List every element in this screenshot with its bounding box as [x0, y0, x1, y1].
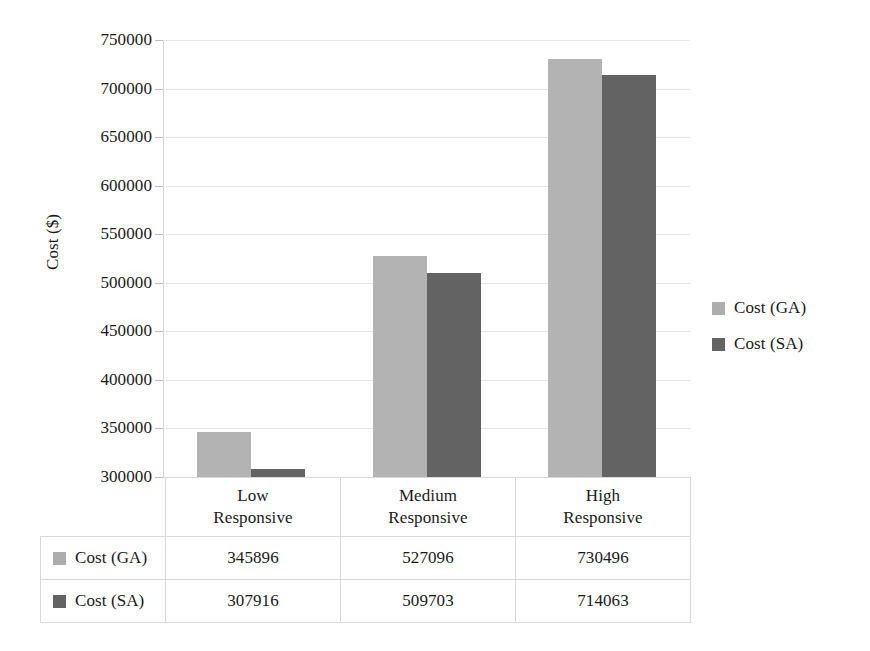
y-axis-tick-mark [155, 40, 163, 41]
legend-label-cost-ga: Cost (GA) [734, 298, 806, 318]
bar-chart: Cost ($) 7500007000006500006000005500005… [0, 0, 870, 651]
y-axis-tick-label: 500000 [42, 274, 152, 291]
y-axis-tick-label: 750000 [42, 31, 152, 48]
y-axis-tick-mark [155, 283, 163, 284]
y-axis-tick-mark [155, 380, 163, 381]
table-cell-value: 307916 [166, 580, 341, 623]
table-corner-cell [41, 478, 166, 537]
category-line-2: Responsive [166, 507, 340, 529]
category-line-1: High [516, 485, 690, 507]
table-cell-value: 714063 [516, 580, 691, 623]
category-line-1: Medium [341, 485, 515, 507]
y-axis-tick-label: 450000 [42, 322, 152, 339]
y-axis-tick-mark [155, 234, 163, 235]
table-cell-value: 509703 [341, 580, 516, 623]
table-cell-value: 345896 [166, 537, 341, 580]
y-axis-tick-label: 550000 [42, 225, 152, 242]
y-axis-tick-label: 650000 [42, 128, 152, 145]
bar-cost-sa-medium-responsive [427, 273, 481, 477]
y-axis-tick-mark [155, 89, 163, 90]
table-key-cost-ga: Cost (GA) [41, 537, 166, 580]
gridline [163, 40, 690, 41]
table-key-cost-sa: Cost (SA) [41, 580, 166, 623]
y-axis-tick-mark [155, 137, 163, 138]
table-header-medium-responsive: Medium Responsive [341, 478, 516, 537]
bar-cost-ga-low-responsive [197, 432, 251, 477]
table-key-label: Cost (GA) [75, 548, 147, 568]
table-row: Cost (SA) 307916 509703 714063 [41, 580, 691, 623]
legend: Cost (GA) Cost (SA) [712, 290, 806, 362]
bar-cost-sa-high-responsive [602, 75, 656, 477]
legend-item-cost-sa: Cost (SA) [712, 326, 806, 362]
table-cell-value: 527096 [341, 537, 516, 580]
table-key-label: Cost (SA) [75, 591, 144, 611]
legend-swatch-icon-cost-sa [712, 338, 725, 351]
data-table: Low Responsive Medium Responsive High Re… [40, 477, 691, 623]
bar-cost-sa-low-responsive [251, 469, 305, 477]
category-line-2: Responsive [516, 507, 690, 529]
table-row-categories: Low Responsive Medium Responsive High Re… [41, 478, 691, 537]
legend-label-cost-sa: Cost (SA) [734, 334, 803, 354]
legend-item-cost-ga: Cost (GA) [712, 290, 806, 326]
y-axis-tick-label: 350000 [42, 419, 152, 436]
y-axis-tick-mark [155, 186, 163, 187]
table-header-low-responsive: Low Responsive [166, 478, 341, 537]
table-cell-value: 730496 [516, 537, 691, 580]
y-axis-tick-label: 600000 [42, 177, 152, 194]
table-swatch-icon-cost-ga [53, 552, 66, 565]
y-axis-tick-label: 400000 [42, 371, 152, 388]
plot-area [163, 40, 690, 477]
table-swatch-icon-cost-sa [53, 595, 66, 608]
legend-swatch-icon-cost-ga [712, 302, 725, 315]
bar-cost-ga-high-responsive [548, 59, 602, 477]
table-row: Cost (GA) 345896 527096 730496 [41, 537, 691, 580]
bar-cost-ga-medium-responsive [373, 256, 427, 477]
y-axis-tick-mark [155, 331, 163, 332]
table-header-high-responsive: High Responsive [516, 478, 691, 537]
category-line-2: Responsive [341, 507, 515, 529]
category-line-1: Low [166, 485, 340, 507]
y-axis-tick-mark [155, 428, 163, 429]
y-axis-tick-label: 700000 [42, 80, 152, 97]
